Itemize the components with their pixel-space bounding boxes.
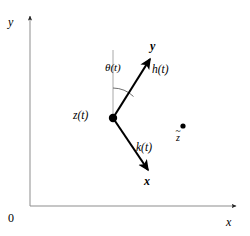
origin-label: 0 [8,212,14,224]
body-point-marker [109,114,117,122]
vector-h-label: h(t) [152,64,169,76]
vector-y-head-label: y [150,40,155,52]
material-point-marker [180,123,185,128]
theta-angle-label: θ(t) [105,62,121,73]
material-point-label: ~ z [176,133,180,143]
vector-k-label: k(t) [136,142,152,154]
y-axis-label: y [8,16,13,28]
body-point-label: z(t) [73,110,88,122]
tilde-accent-icon: ~ [175,127,180,137]
diagram-canvas [0,0,250,236]
vector-x-head-label: x [144,175,150,187]
vector-diagram-figure: y x 0 y x h(t) k(t) θ(t) z(t) ~ z [0,0,250,236]
x-axis-label: x [226,216,231,228]
material-point-symbol: ~ z [176,133,180,143]
